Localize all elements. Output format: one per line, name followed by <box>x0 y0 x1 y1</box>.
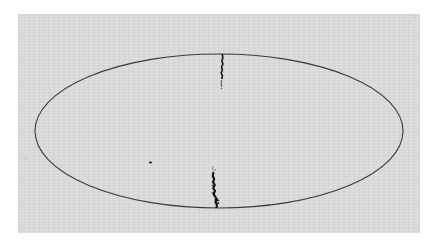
scan-speck <box>414 15 415 16</box>
figure <box>0 0 435 247</box>
northern-filament <box>221 54 223 89</box>
sky-map <box>0 0 435 247</box>
southern-filament <box>212 166 220 208</box>
isolated-source <box>149 161 152 163</box>
scan-speck <box>25 157 26 158</box>
projection-outline <box>35 54 403 208</box>
